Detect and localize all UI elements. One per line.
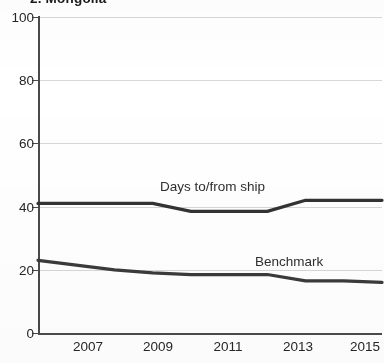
series-line-days-to-from-ship: [38, 200, 382, 211]
series-line-benchmark: [38, 260, 382, 282]
series-label-benchmark: Benchmark: [255, 254, 323, 269]
series-label-days-to-from-ship: Days to/from ship: [160, 179, 265, 194]
line-chart-figure: 2. Mongolia 100 80 60 40 20 0 2007 2009 …: [0, 0, 384, 363]
